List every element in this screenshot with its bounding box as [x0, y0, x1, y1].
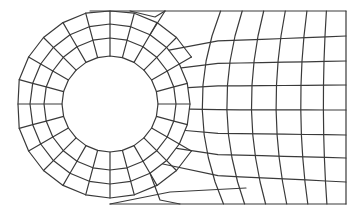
grid-col-5: [323, 11, 327, 204]
plate-with-hole-mesh: [0, 0, 361, 215]
grid-col-4: [301, 11, 308, 204]
grid-row-5: [186, 131, 347, 136]
grid-row-7: [163, 164, 346, 182]
spoke-16: [63, 146, 86, 186]
transition-top-1: [150, 11, 165, 35]
spoke-14: [29, 128, 69, 151]
transition-bottom-2: [110, 188, 246, 204]
spoke-13: [19, 116, 63, 128]
grid-col-0: [202, 11, 223, 204]
rectangular-grid: [90, 11, 346, 204]
spoke-19: [122, 150, 134, 194]
spoke-5: [122, 13, 134, 57]
grid-row-4: [190, 109, 346, 110]
spoke-8: [63, 23, 86, 63]
spoke-10: [29, 57, 69, 80]
spoke-11: [19, 80, 63, 92]
spoke-2: [152, 57, 192, 80]
spoke-23: [156, 116, 187, 124]
grid-row-6: [177, 148, 346, 158]
spoke-17: [86, 150, 98, 194]
grid-col-3: [276, 11, 287, 204]
spoke-22: [152, 128, 192, 151]
grid-row-3: [188, 85, 346, 88]
transition-bottom-1: [150, 173, 180, 204]
spoke-20: [134, 146, 157, 186]
spoke-7: [86, 13, 98, 57]
spoke-1: [156, 83, 187, 91]
